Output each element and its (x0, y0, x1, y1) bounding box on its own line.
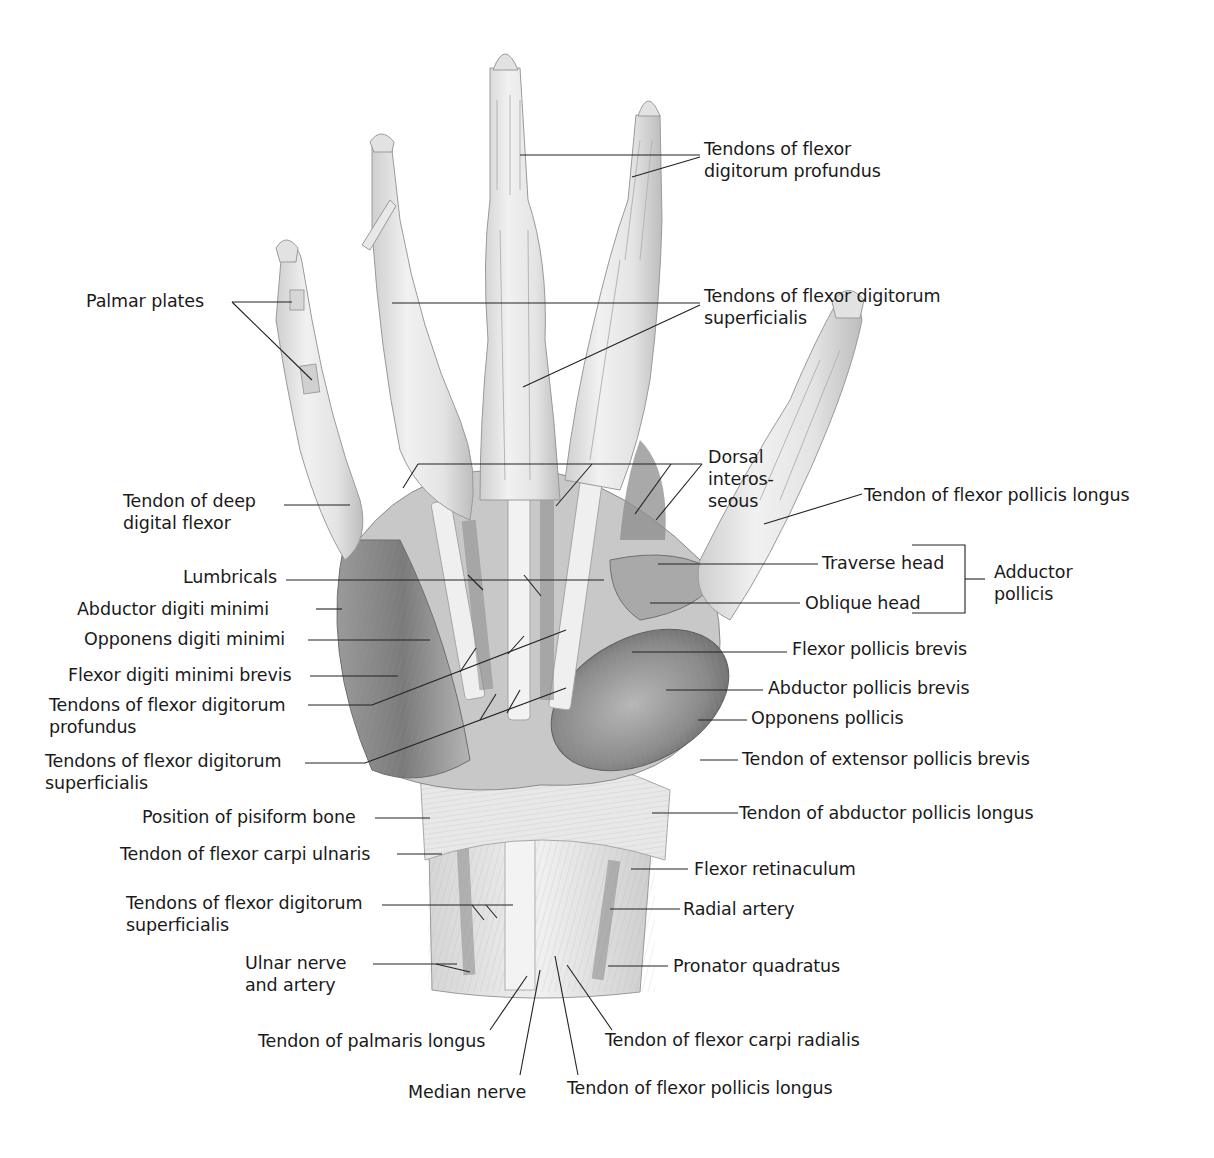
label-tendon-deep-digital-flexor: Tendon of deep digital flexor (123, 490, 256, 534)
label-flexor-retinaculum: Flexor retinaculum (694, 858, 856, 880)
label-oblique-head: Oblique head (805, 592, 921, 614)
label-tendons-fds-wrist: Tendons of flexor digitorum superficiali… (126, 892, 363, 936)
hand-anatomy-figure: Tendons of flexor digitorum profundus Pa… (0, 0, 1214, 1158)
label-median-nerve: Median nerve (408, 1081, 526, 1103)
label-tendons-fds-top: Tendons of flexor digitorum superficiali… (704, 285, 941, 329)
label-pisiform: Position of pisiform bone (142, 806, 356, 828)
label-tendon-palmaris-longus: Tendon of palmaris longus (258, 1030, 485, 1052)
label-palmar-plates: Palmar plates (86, 290, 204, 312)
label-dorsal-interosseous: Dorsal interos- seous (708, 446, 774, 512)
label-abductor-pollicis-brevis: Abductor pollicis brevis (768, 677, 969, 699)
label-opponens-digiti-minimi: Opponens digiti minimi (84, 628, 285, 650)
label-flexor-pollicis-brevis: Flexor pollicis brevis (792, 638, 967, 660)
label-tendon-fcu: Tendon of flexor carpi ulnaris (120, 843, 370, 865)
label-tendon-apl: Tendon of abductor pollicis longus (739, 802, 1034, 824)
label-lumbricals: Lumbricals (183, 566, 277, 588)
label-tendon-fcr: Tendon of flexor carpi radialis (605, 1029, 860, 1051)
label-tendons-fds-palm: Tendons of flexor digitorum superficiali… (45, 750, 282, 794)
label-flexor-digiti-minimi-brevis: Flexor digiti minimi brevis (68, 664, 292, 686)
label-opponens-pollicis: Opponens pollicis (751, 707, 904, 729)
label-abductor-digiti-minimi: Abductor digiti minimi (77, 598, 269, 620)
label-adductor-pollicis: Adductor pollicis (994, 561, 1073, 605)
label-tendons-fdp-palm: Tendons of flexor digitorum profundus (49, 694, 286, 738)
label-radial-artery: Radial artery (683, 898, 794, 920)
label-tendon-fpl-thumb: Tendon of flexor pollicis longus (864, 484, 1130, 506)
label-pronator-quadratus: Pronator quadratus (673, 955, 840, 977)
label-tendon-fpl-wrist: Tendon of flexor pollicis longus (567, 1077, 833, 1099)
label-traverse-head: Traverse head (822, 552, 944, 574)
label-tendons-fdp-top: Tendons of flexor digitorum profundus (704, 138, 881, 182)
label-ulnar-nerve-artery: Ulnar nerve and artery (245, 952, 346, 996)
label-tendon-epb: Tendon of extensor pollicis brevis (742, 748, 1030, 770)
